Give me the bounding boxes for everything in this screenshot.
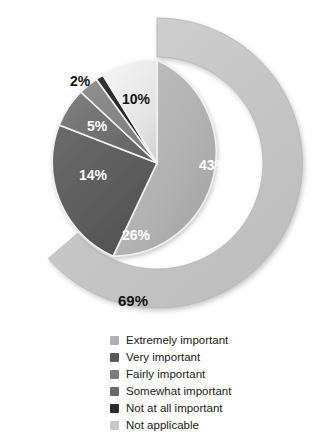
pie-label-26: 26% [122,227,151,243]
legend-item-somewhat-important[interactable]: Somewhat important [110,383,323,400]
outer-ring-label-69: 69% [118,292,148,309]
pie-label-14: 14% [79,167,108,183]
legend-label: Very important [126,351,200,364]
legend-label: Fairly important [126,368,205,381]
legend-label: Extremely important [126,334,228,347]
pie-chart-container: 43% 26% 14% 5% 2% 10% 69% [0,0,323,330]
pie-label-5: 5% [87,118,108,134]
pie-label-43: 43% [199,157,228,173]
legend-swatch-icon [110,404,119,413]
pie-label-10: 10% [122,91,151,107]
legend-item-very-important[interactable]: Very important [110,349,323,366]
legend-swatch-icon [110,336,119,345]
legend-swatch-icon [110,421,119,430]
legend-item-not-applicable[interactable]: Not applicable [110,417,323,434]
legend-item-extremely-important[interactable]: Extremely important [110,332,323,349]
legend-label: Not at all important [126,402,223,415]
chart-legend: Extremely important Very important Fairl… [0,332,323,434]
pie-label-2: 2% [70,73,91,89]
legend-label: Somewhat important [126,385,231,398]
legend-swatch-icon [110,387,119,396]
pie-chart-svg: 43% 26% 14% 5% 2% 10% 69% [0,0,323,330]
legend-swatch-icon [110,353,119,362]
legend-item-not-at-all-important[interactable]: Not at all important [110,400,323,417]
legend-label: Not applicable [126,419,199,432]
legend-swatch-icon [110,370,119,379]
legend-item-fairly-important[interactable]: Fairly important [110,366,323,383]
